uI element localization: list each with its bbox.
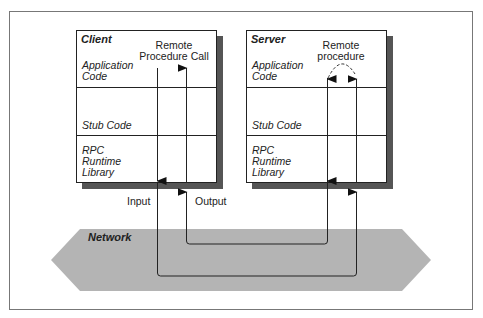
server-stub-code: Stub Code	[252, 119, 302, 131]
server-title: Server	[251, 33, 286, 45]
input-label: Input	[127, 195, 150, 207]
network-label: Network	[88, 231, 132, 243]
client-box: Client Application Code Stub Code RPC Ru…	[77, 31, 217, 183]
client-title: Client	[81, 33, 113, 45]
server-annotation-line2: procedure	[317, 50, 364, 62]
client-rpc-line3: Library	[82, 166, 115, 178]
rpc-diagram: Network Client Application Code Stub Cod…	[0, 0, 483, 318]
server-box: Server Application Code Stub Code RPC Ru…	[247, 31, 387, 183]
server-app-code-line2: Code	[252, 70, 277, 82]
client-annotation-line2: Procedure Call	[139, 50, 208, 62]
client-stub-code: Stub Code	[82, 119, 132, 131]
output-label: Output	[195, 195, 227, 207]
client-app-code-line2: Code	[82, 70, 107, 82]
server-rpc-line3: Library	[252, 166, 285, 178]
